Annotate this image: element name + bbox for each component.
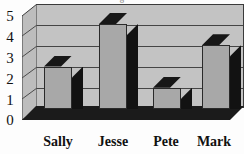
x-axis-label-mark: Mark [188, 134, 240, 150]
bar-top-cap [44, 56, 72, 67]
y-axis-tick-0: 0 [2, 112, 18, 129]
bar-side-face [127, 24, 138, 109]
bar-mark[interactable] [202, 45, 230, 109]
bar-top-cap [99, 13, 127, 24]
bar-side-face [72, 67, 83, 110]
bar-top-cap [153, 77, 181, 88]
y-axis-tick-2: 2 [2, 71, 18, 88]
x-axis-label-sally: Sally [30, 134, 86, 150]
y-axis-tick-1: 1 [2, 92, 18, 109]
bar-chart: g 0 1 2 3 4 5 [0, 0, 244, 154]
bar-sally[interactable] [44, 67, 72, 110]
bar-front-face [153, 88, 181, 109]
y-axis-tick-4: 4 [2, 29, 18, 46]
bar-pete[interactable] [153, 88, 181, 109]
y-axis-tick-3: 3 [2, 50, 18, 67]
bar-front-face [99, 24, 127, 109]
bar-side-face [230, 45, 241, 109]
bar-front-face [44, 67, 72, 110]
bar-top-cap [202, 34, 230, 45]
x-axis-label-pete: Pete [140, 134, 192, 150]
bar-series [22, 4, 244, 120]
y-axis-tick-5: 5 [2, 8, 18, 25]
bar-front-face [202, 45, 230, 109]
bar-jesse[interactable] [99, 24, 127, 109]
x-axis-label-jesse: Jesse [85, 134, 141, 150]
bar-side-face [181, 88, 192, 109]
chart-title-cutoff: g [0, 0, 244, 3]
